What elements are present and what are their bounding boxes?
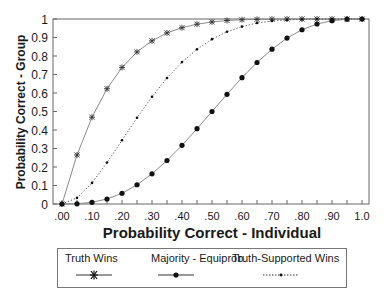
dot-marker-icon bbox=[361, 18, 364, 21]
asterisk-marker-icon bbox=[194, 21, 200, 27]
x-tick-label: 1.0 bbox=[354, 210, 369, 222]
circle-marker-icon bbox=[149, 171, 154, 176]
y-tick-label: 1 bbox=[41, 13, 48, 27]
dot-marker-icon bbox=[76, 197, 79, 200]
y-tick-label: 0.3 bbox=[31, 142, 48, 156]
circle-marker-icon bbox=[158, 270, 194, 280]
x-tick-label: .60 bbox=[234, 210, 249, 222]
circle-marker-icon bbox=[284, 35, 289, 40]
asterisk-marker-icon bbox=[104, 86, 110, 92]
circle-marker-icon bbox=[299, 27, 304, 32]
x-tick-label: .10 bbox=[84, 210, 99, 222]
asterisk-marker-icon bbox=[134, 49, 140, 55]
circle-marker-icon bbox=[179, 143, 184, 148]
asterisk-marker-icon bbox=[74, 152, 80, 158]
circle-marker-icon bbox=[134, 182, 139, 187]
asterisk-marker-icon bbox=[89, 114, 95, 120]
x-tick-label: .80 bbox=[294, 210, 309, 222]
asterisk-marker-icon bbox=[119, 64, 125, 70]
dot-marker-icon bbox=[271, 20, 274, 23]
dot-marker-icon bbox=[211, 38, 214, 41]
y-tick-label: 0.9 bbox=[31, 31, 48, 45]
y-tick-label: 0.5 bbox=[31, 105, 48, 119]
circle-marker-icon bbox=[89, 200, 94, 205]
dot-marker-icon bbox=[166, 77, 169, 80]
dot-marker-icon bbox=[226, 30, 229, 33]
circle-marker-icon bbox=[164, 158, 169, 163]
y-tick-label: 0.7 bbox=[31, 68, 48, 82]
dot-marker-icon bbox=[286, 19, 289, 22]
dot-marker-icon bbox=[241, 25, 244, 28]
x-tick-label: .30 bbox=[144, 210, 159, 222]
dot-marker-icon bbox=[91, 182, 94, 185]
y-tick-label: 0.1 bbox=[31, 179, 48, 193]
asterisk-marker-icon bbox=[224, 17, 230, 23]
dot-marker-icon bbox=[181, 61, 184, 64]
circle-marker-icon bbox=[74, 201, 79, 206]
series-majority-equiprob- bbox=[59, 16, 364, 206]
dot-marker-icon bbox=[331, 18, 334, 21]
circle-marker-icon bbox=[209, 109, 214, 114]
y-tick-label: 0 bbox=[41, 198, 48, 212]
circle-marker-icon bbox=[314, 21, 319, 26]
dot-marker-icon bbox=[256, 22, 259, 25]
dot-marker-icon bbox=[151, 95, 154, 98]
circle-marker-icon bbox=[239, 75, 244, 80]
circle-marker-icon bbox=[224, 92, 229, 97]
x-tick-label: .20 bbox=[114, 210, 129, 222]
y-tick-label: 0.2 bbox=[31, 161, 48, 175]
dot-marker-icon bbox=[346, 18, 349, 21]
figure-caption bbox=[18, 296, 368, 306]
dot-marker-icon bbox=[61, 203, 64, 206]
legend: Truth Wins Majority - Equiprob. Truth-Su… bbox=[57, 248, 347, 288]
circle-marker-icon bbox=[104, 196, 109, 201]
y-tick-label: 0.4 bbox=[31, 124, 48, 138]
asterisk-marker-icon bbox=[239, 17, 245, 23]
x-tick-label: .70 bbox=[264, 210, 279, 222]
dot-marker-icon bbox=[121, 139, 124, 142]
x-tick-label: .40 bbox=[174, 210, 189, 222]
asterisk-marker-icon bbox=[254, 16, 260, 22]
dot-marker-icon bbox=[301, 18, 304, 21]
y-tick-label: 0.8 bbox=[31, 50, 48, 64]
dot-marker-icon bbox=[316, 18, 319, 21]
circle-marker-icon bbox=[269, 47, 274, 52]
circle-marker-icon bbox=[194, 126, 199, 131]
y-axis-label: Probability Correct - Group bbox=[14, 35, 28, 190]
dot-marker-icon bbox=[136, 116, 139, 119]
y-tick-label: 0.6 bbox=[31, 87, 48, 101]
x-axis-label: Probability Correct - Individual bbox=[103, 224, 321, 241]
dot-marker-icon bbox=[196, 48, 199, 51]
legend-label-truth-wins: Truth Wins bbox=[65, 252, 118, 264]
circle-marker-icon bbox=[119, 191, 124, 196]
asterisk-marker-icon bbox=[76, 270, 112, 280]
x-tick-label: .50 bbox=[204, 210, 219, 222]
dot-marker-icon bbox=[106, 161, 109, 164]
asterisk-marker-icon bbox=[179, 25, 185, 31]
x-tick-label: .90 bbox=[324, 210, 339, 222]
asterisk-marker-icon bbox=[149, 38, 155, 44]
dot-marker-icon bbox=[263, 270, 299, 280]
circle-marker-icon bbox=[254, 60, 259, 65]
x-axis: .00.10.20.30.40.50.60.70.80.901.0 bbox=[54, 200, 369, 222]
legend-label-truth-supported-wins: Truth-Supported Wins bbox=[232, 252, 339, 264]
asterisk-marker-icon bbox=[209, 19, 215, 25]
asterisk-marker-icon bbox=[164, 30, 170, 36]
series-layer bbox=[59, 16, 365, 207]
x-tick-label: .00 bbox=[54, 210, 69, 222]
